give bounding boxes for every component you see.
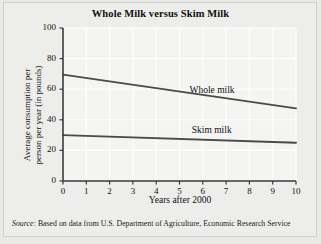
figure-container: Whole Milk versus Skim Milk 020406080100… [0, 0, 321, 244]
source-note: Source: Based on data from U.S. Departme… [12, 219, 312, 228]
y-axis-title-line-2: person per year (in pounds) [33, 35, 44, 195]
plot-area: 020406080100 012345678910 Average consum… [0, 0, 321, 244]
y-axis-title-line-1: Average consumption per [22, 35, 33, 195]
x-axis-title: Years after 2000 [63, 195, 297, 205]
source-text: Based on data from U.S. Department of Ag… [36, 219, 291, 228]
y-tick-label: 100 [34, 22, 56, 32]
series-label-whole-milk: Whole milk [189, 85, 234, 95]
y-axis-title: Average consumption per person per year … [22, 35, 44, 195]
source-label: Source: [12, 219, 36, 228]
series-label-skim-milk: Skim milk [192, 125, 232, 135]
